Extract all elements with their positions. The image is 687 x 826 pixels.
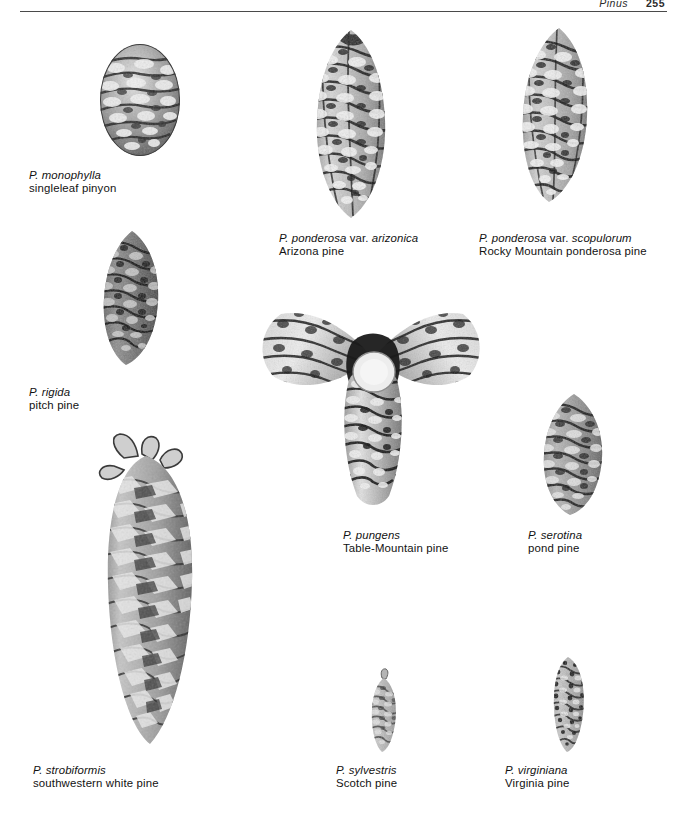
common-name-ponderosa-arizonica: Arizona pine	[279, 245, 418, 258]
header-divider-rule	[20, 11, 667, 12]
caption-sylvestris: P. sylvestris Scotch pine	[336, 764, 397, 791]
cone-photo-ponderosa-scopulorum	[503, 25, 609, 209]
scientific-name-rigida: P. rigida	[29, 386, 79, 399]
cone-photo-sylvestris	[358, 666, 410, 758]
common-name-monophylla: singleleaf pinyon	[29, 182, 116, 195]
caption-monophylla: P. monophylla singleleaf pinyon	[29, 169, 116, 196]
page-folio-number: 255	[646, 0, 665, 9]
common-name-rigida: pitch pine	[29, 399, 79, 412]
common-name-sylvestris: Scotch pine	[336, 777, 397, 790]
common-name-serotina: pond pine	[528, 542, 582, 555]
scientific-name-ponderosa-scopulorum: P. ponderosa var. scopulorum	[479, 232, 647, 245]
common-name-virginiana: Virginia pine	[505, 777, 569, 790]
caption-rigida: P. rigida pitch pine	[29, 386, 79, 413]
cone-photo-pungens-cluster	[253, 300, 489, 522]
scientific-name-monophylla: P. monophylla	[29, 169, 116, 182]
caption-serotina: P. serotina pond pine	[528, 529, 582, 556]
scientific-name-serotina: P. serotina	[528, 529, 582, 542]
cone-photo-monophylla	[84, 28, 196, 172]
caption-pungens: P. pungens Table-Mountain pine	[343, 529, 448, 556]
caption-ponderosa-arizonica: P. ponderosa var. arizonica Arizona pine	[279, 232, 418, 259]
scientific-name-ponderosa-arizonica: P. ponderosa var. arizonica	[279, 232, 418, 245]
scientific-name-pungens: P. pungens	[343, 529, 448, 542]
cone-photo-rigida	[86, 228, 176, 372]
cone-photo-virginiana	[538, 652, 598, 758]
cone-photo-strobiformis	[84, 432, 212, 756]
cone-photo-ponderosa-arizonica	[299, 28, 403, 224]
running-head-genus: Pinus	[599, 0, 628, 9]
common-name-ponderosa-scopulorum: Rocky Mountain ponderosa pine	[479, 245, 647, 258]
cone-photo-serotina	[524, 390, 620, 522]
caption-virginiana: P. virginiana Virginia pine	[505, 764, 569, 791]
scientific-name-sylvestris: P. sylvestris	[336, 764, 397, 777]
caption-ponderosa-scopulorum: P. ponderosa var. scopulorum Rocky Mount…	[479, 232, 647, 259]
scientific-name-virginiana: P. virginiana	[505, 764, 569, 777]
caption-strobiformis: P. strobiformis southwestern white pine	[33, 764, 159, 791]
scientific-name-strobiformis: P. strobiformis	[33, 764, 159, 777]
running-head-text: Pinus255	[599, 0, 665, 9]
common-name-pungens: Table-Mountain pine	[343, 542, 448, 555]
common-name-strobiformis: southwestern white pine	[33, 777, 159, 790]
